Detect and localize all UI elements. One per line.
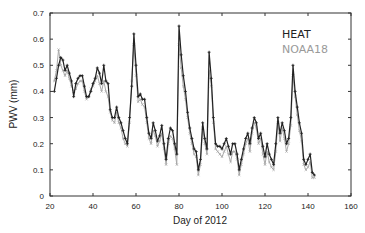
legend: HEAT NOAA18: [282, 28, 328, 56]
series-line: [54, 44, 314, 177]
x-axis-label: Day of 2012: [173, 215, 227, 226]
y-tick-label: 0.2: [33, 140, 45, 149]
data-point-marker: [72, 95, 75, 98]
y-axis-label: PWV (mm): [8, 80, 19, 129]
data-point-marker: [291, 64, 294, 67]
series-layer: [53, 25, 316, 179]
data-point-marker: [128, 116, 131, 119]
data-point-marker: [143, 98, 146, 101]
line-chart: 20406080100120140160 00.10.20.30.40.50.6…: [0, 0, 365, 233]
x-tick-label: 40: [89, 202, 98, 211]
data-point-marker: [276, 116, 279, 119]
data-point-marker: [289, 116, 292, 119]
data-point-marker: [208, 51, 211, 54]
data-point-marker: [309, 153, 312, 156]
data-point-marker: [160, 124, 163, 127]
data-point-marker: [281, 121, 284, 124]
y-tick-label: 0.7: [33, 9, 45, 18]
y-tick-label: 0.5: [33, 61, 45, 70]
legend-item-heat: HEAT: [282, 28, 311, 41]
x-tick-label: 140: [301, 202, 315, 211]
x-tick-label: 20: [46, 202, 55, 211]
y-tick-label: 0.6: [33, 35, 45, 44]
y-tick-label: 0.3: [33, 114, 45, 123]
data-point-marker: [266, 142, 269, 145]
data-point-marker: [178, 25, 181, 28]
x-tick-label: 120: [258, 202, 272, 211]
y-tick-label: 0.4: [33, 87, 45, 96]
data-point-marker: [98, 72, 101, 75]
series-noaa18: [53, 43, 316, 179]
data-point-marker: [212, 116, 215, 119]
data-point-marker: [199, 158, 202, 161]
data-point-marker: [115, 106, 118, 109]
data-point-marker: [217, 150, 219, 152]
data-point-marker: [53, 90, 56, 93]
data-point-marker: [102, 64, 105, 67]
data-point-marker: [81, 74, 84, 77]
data-point-marker: [152, 121, 155, 124]
y-tick-label: 0: [40, 192, 45, 201]
x-tick-label: 160: [344, 202, 358, 211]
data-point-marker: [201, 121, 204, 124]
y-tick-label: 0.1: [33, 166, 45, 175]
x-tick-label: 60: [132, 202, 141, 211]
data-point-marker: [233, 142, 236, 145]
series-line: [54, 26, 314, 175]
data-point-marker: [130, 85, 133, 88]
data-point-marker: [109, 108, 112, 111]
x-tick-label: 100: [215, 202, 229, 211]
x-tick-label: 80: [175, 202, 184, 211]
data-point-marker: [132, 32, 135, 35]
legend-item-noaa18: NOAA18: [282, 43, 328, 56]
